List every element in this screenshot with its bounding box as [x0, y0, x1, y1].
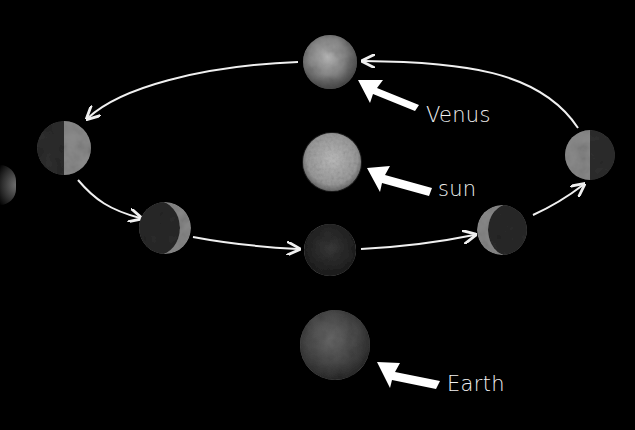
earth-pointer-arrow	[377, 362, 440, 389]
venus-pointer-arrow	[358, 80, 419, 111]
venus-phases-diagram	[0, 0, 635, 430]
sun-pointer-arrow	[367, 166, 432, 196]
earth-label: Earth	[447, 372, 505, 396]
orbit-arrow-left-down	[78, 180, 140, 218]
venus-crescent-left-phase	[136, 201, 191, 255]
sun-label: sun	[438, 177, 476, 201]
orbit-arrow-bottom-right	[361, 235, 474, 249]
venus-full-phase	[303, 35, 357, 89]
venus-crescent-right-phase	[477, 204, 530, 256]
venus-label: Venus	[426, 103, 491, 127]
sun-body	[302, 132, 362, 192]
venus-half-left-phase	[37, 121, 91, 175]
orbit-arrow-bottom-left	[193, 237, 298, 249]
venus-new-phase	[304, 224, 356, 276]
earth-body	[300, 310, 370, 380]
orbit-arrow-right-up	[533, 185, 583, 215]
venus-half-right-phase	[565, 130, 615, 180]
orbit-arrow-top-left	[88, 62, 298, 118]
